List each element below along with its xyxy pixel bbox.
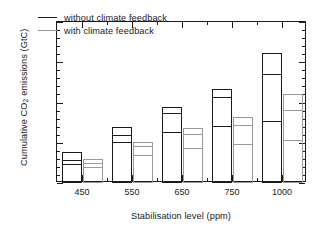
y-axis-tick-minor-right <box>302 46 305 47</box>
bar-650-without-feedback <box>162 107 182 183</box>
bar-mid-line <box>184 134 202 135</box>
x-axis-tick-minor-top <box>207 22 208 25</box>
bar-mid-line <box>234 125 252 126</box>
y-axis-tick-minor <box>57 127 60 128</box>
x-axis-tick-minor-top <box>257 22 258 25</box>
legend-label: without climate feedback <box>64 13 167 23</box>
y-axis-tick-minor-right <box>302 30 305 31</box>
x-axis-tick-label: 450 <box>57 188 107 197</box>
y-axis-tick-minor <box>57 151 60 152</box>
legend-item-without-climate-feedback: without climate feedback <box>38 11 167 24</box>
bar-550-without-feedback <box>112 127 132 183</box>
y-axis-tick-minor <box>57 135 60 136</box>
bar-lower-bound-line <box>63 164 81 165</box>
x-axis-tick-label: 650 <box>157 188 207 197</box>
y-axis-tick-minor <box>57 46 60 47</box>
bar-650-with-feedback <box>183 128 203 183</box>
y-axis-tick-major <box>57 183 63 184</box>
bar-1000-without-feedback <box>262 53 282 183</box>
y-axis-tick-minor-right <box>302 86 305 87</box>
y-axis-tick-minor-right <box>302 70 305 71</box>
x-axis-tick-label: 1000 <box>257 188 307 197</box>
bar-550-with-feedback <box>133 142 153 183</box>
bar-lower-bound-line <box>113 142 131 143</box>
x-axis-tick-minor <box>207 178 208 181</box>
x-axis-tick-major-top <box>232 22 233 28</box>
x-axis-tick-label: 750 <box>207 188 257 197</box>
x-axis-tick-minor <box>107 178 108 181</box>
y-axis-tick-major-right <box>299 62 305 63</box>
bar-lower-bound-line <box>263 121 281 122</box>
y-axis-tick-minor <box>57 167 60 168</box>
bar-lower-bound-line <box>184 148 202 149</box>
plot-area: 010002000300040004505506507501000 <box>56 21 306 182</box>
x-axis-tick-minor <box>257 178 258 181</box>
y-axis-tick-major <box>57 62 63 63</box>
y-axis-label: Cumulative CO2 emissions (GtC) <box>19 12 30 182</box>
bar-lower-bound-line <box>163 132 181 133</box>
x-axis-tick-major-top <box>182 22 183 28</box>
legend-label: with climate feedback <box>64 26 154 36</box>
x-axis-tick-minor <box>157 178 158 181</box>
y-axis-tick-minor <box>57 86 60 87</box>
legend-swatch-line-icon <box>38 17 57 18</box>
bar-lower-bound-line <box>284 140 302 141</box>
y-axis-tick-minor-right <box>302 54 305 55</box>
y-axis-tick-minor <box>57 175 60 176</box>
bar-mid-line <box>284 110 302 111</box>
bar-mid-line <box>163 113 181 114</box>
bar-lower-bound-line <box>213 126 231 127</box>
bar-mid-line <box>134 146 152 147</box>
bar-lower-bound-line <box>84 167 102 168</box>
y-axis-tick-major-right <box>299 22 305 23</box>
bar-1000-with-feedback <box>283 94 303 183</box>
y-axis-label-post: emissions (GtC) <box>19 29 29 99</box>
bar-mid-line <box>84 163 102 164</box>
y-axis-tick-minor <box>57 78 60 79</box>
x-axis-tick-major-top <box>282 22 283 28</box>
y-axis-tick-major <box>57 103 63 104</box>
bar-450-without-feedback <box>62 152 82 183</box>
y-axis-tick-major <box>57 143 63 144</box>
chart-legend: without climate feedback with climate fe… <box>38 11 167 37</box>
y-axis-tick-minor <box>57 70 60 71</box>
y-axis-tick-minor-right <box>302 38 305 39</box>
x-axis-tick-label: 550 <box>107 188 157 197</box>
plot-inner: 010002000300040004505506507501000 <box>57 22 305 181</box>
chart-figure: Cumulative CO2 emissions (GtC) 010002000… <box>0 0 321 232</box>
y-axis-tick-minor <box>57 54 60 55</box>
bar-lower-bound-line <box>234 144 252 145</box>
bar-450-with-feedback <box>83 159 103 183</box>
y-axis-tick-minor <box>57 111 60 112</box>
bar-lower-bound-line <box>134 155 152 156</box>
y-axis-label-pre: Cumulative CO <box>19 102 29 166</box>
legend-swatch-line-icon <box>38 30 57 31</box>
legend-item-with-climate-feedback: with climate feedback <box>38 24 167 37</box>
bar-750-without-feedback <box>212 89 232 183</box>
y-axis-tick-major-right <box>299 183 305 184</box>
bar-mid-line <box>113 135 131 136</box>
y-axis-tick-minor <box>57 38 60 39</box>
y-axis-label-subscript: 2 <box>22 99 29 103</box>
bar-mid-line <box>63 160 81 161</box>
y-axis-tick-minor <box>57 119 60 120</box>
bar-mid-line <box>213 97 231 98</box>
x-axis-label: Stabilisation level (ppm) <box>52 211 310 221</box>
bar-750-with-feedback <box>233 117 253 183</box>
bar-mid-line <box>263 74 281 75</box>
y-axis-tick-minor <box>57 94 60 95</box>
y-axis-tick-minor <box>57 159 60 160</box>
y-axis-tick-minor-right <box>302 78 305 79</box>
